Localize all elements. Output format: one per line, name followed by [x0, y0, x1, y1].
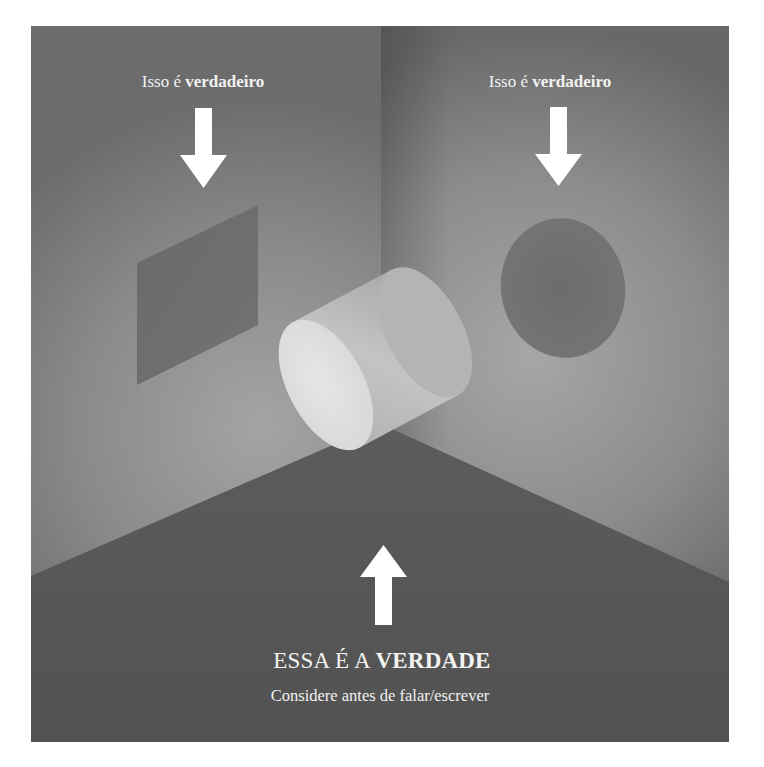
arrow-up-icon: [360, 545, 408, 626]
cylinder-truth-illustration: Isso é verdadeiro Isso é verdadeiro ESSA…: [31, 26, 729, 742]
truth-heading: ESSA É A VERDADE: [273, 649, 490, 672]
right-label-emphasis: verdadeiro: [532, 72, 611, 91]
truth-subtitle: Considere antes de falar/escrever: [271, 688, 490, 705]
truth-heading-emphasis: VERDADE: [376, 648, 491, 673]
right-projection-label: Isso é verdadeiro: [489, 73, 611, 90]
arrow-down-icon: [535, 107, 583, 187]
scene-graphic: [31, 26, 729, 742]
left-projection-label: Isso é verdadeiro: [142, 73, 264, 90]
left-label-prefix: Isso é: [142, 72, 181, 91]
right-label-prefix: Isso é: [489, 72, 528, 91]
arrow-down-icon: [180, 108, 228, 189]
truth-heading-prefix: ESSA É A: [273, 648, 369, 673]
left-label-emphasis: verdadeiro: [185, 72, 264, 91]
